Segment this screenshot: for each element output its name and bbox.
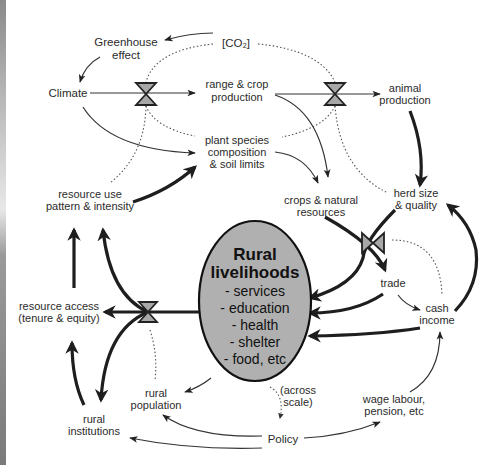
- livelihoods-item: - education: [220, 300, 289, 316]
- node-plant-line2: composition: [208, 146, 267, 158]
- node-climate: Climate: [49, 87, 88, 99]
- node-range-line1: range & crop: [206, 78, 269, 90]
- arrow-policy-to-population: [163, 415, 262, 436]
- node-across-line1: (across: [280, 384, 317, 396]
- arrow-policy-to-wage: [304, 422, 380, 438]
- node-greenhouse-line2: effect: [112, 49, 141, 61]
- node-plant-line3: & soil limits: [209, 158, 265, 170]
- arrow-greenhouse-to-climate: [80, 57, 100, 82]
- node-cash-line2: income: [419, 314, 454, 326]
- arrow-trade-to-livelihoods: [310, 294, 383, 313]
- node-co2: [CO₂]: [222, 37, 250, 49]
- arrow-wage-to-cash: [410, 332, 440, 392]
- node-trade: trade: [380, 277, 405, 289]
- arrow-valve-to-institutions: [101, 312, 148, 400]
- livelihoods-item: - services: [225, 283, 285, 299]
- node-animal-line1: animal: [389, 82, 421, 94]
- rural-livelihoods-node: Rural livelihoods - services - education…: [199, 221, 311, 381]
- valve-climate-range: [136, 83, 156, 105]
- arrow-animal-to-herd: [410, 111, 421, 185]
- node-access-line1: resource access: [19, 300, 100, 312]
- livelihoods-item: - health: [232, 317, 279, 333]
- dotted-valve-to-population: [150, 330, 156, 380]
- node-wage-line2: pension, etc: [364, 405, 424, 417]
- livelihoods-item: - shelter: [230, 334, 281, 350]
- node-crops-line2: resources: [297, 206, 346, 218]
- livelihoods-title-2: livelihoods: [211, 263, 300, 282]
- node-cash-line1: cash: [425, 302, 448, 314]
- node-plant-line1: plant species: [205, 134, 270, 146]
- dotted-valve-right-to-plant: [282, 106, 335, 137]
- node-range-line2: production: [211, 91, 262, 103]
- node-wage-line1: wage labour,: [362, 393, 425, 405]
- node-access-line2: (tenure & equity): [18, 312, 99, 324]
- arrow-resourceuse-to-plant: [133, 167, 195, 202]
- node-greenhouse-line1: Greenhouse: [94, 36, 157, 48]
- node-population-line2: population: [131, 399, 182, 411]
- livelihoods-diagram: Rural livelihoods - services - education…: [0, 0, 502, 465]
- dotted-valve-left-to-resourceuse: [110, 106, 146, 183]
- arrow-range-to-crops: [275, 95, 328, 177]
- dotted-valve-right-to-herd: [335, 106, 388, 193]
- arrow-plant-to-crops: [275, 152, 318, 183]
- node-resourceuse-line1: resource use: [58, 188, 122, 200]
- dotted-co2-to-valve-left: [146, 44, 213, 82]
- dotted-co2-to-valve-right: [258, 44, 335, 82]
- node-institutions-line1: rural: [83, 413, 105, 425]
- arrow-climate-to-plant: [83, 107, 195, 153]
- livelihoods-title-1: Rural: [233, 245, 276, 264]
- arrow-co2-to-greenhouse: [165, 33, 213, 40]
- node-herd-line2: & quality: [395, 199, 438, 211]
- arrow-cash-to-livelihoods: [310, 328, 420, 336]
- node-population-line1: rural: [145, 387, 167, 399]
- livelihoods-item: - food, etc: [224, 351, 286, 367]
- node-animal-line2: production: [379, 94, 430, 106]
- arrow-institutions-to-access: [72, 343, 84, 405]
- node-policy: Policy: [268, 433, 299, 445]
- node-across-line2: scale): [283, 396, 312, 408]
- arrow-livelihoods-to-population: [185, 378, 211, 392]
- node-herd-line1: herd size: [394, 187, 439, 199]
- arrow-cash-to-herd: [448, 205, 477, 311]
- node-resourceuse-line2: pattern & intensity: [46, 200, 135, 212]
- node-crops-line1: crops & natural: [284, 194, 358, 206]
- node-institutions-line2: institutions: [68, 425, 120, 437]
- arrow-trade-to-cash: [398, 295, 420, 310]
- arrow-valve-to-resourceuse: [103, 230, 148, 312]
- arrow-policy-to-institutions: [130, 438, 262, 448]
- dotted-valve-left-to-plant: [146, 106, 195, 136]
